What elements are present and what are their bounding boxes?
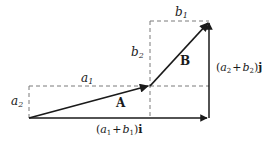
label-b1: b1 — [175, 5, 188, 20]
vector-A-arrow — [29, 86, 148, 118]
vector-addition-diagram: a1 a2 b1 b2 A B (a1+b1)i (a2+b2)j — [0, 0, 274, 142]
label-b2: b2 — [131, 45, 144, 60]
label-a2: a2 — [11, 94, 23, 109]
label-a1: a1 — [81, 71, 93, 86]
label-vector-B: B — [180, 54, 190, 68]
label-vector-A: A — [115, 96, 126, 110]
label-sum-x: (a1+b1)i — [96, 123, 143, 137]
vector-B-arrow — [150, 23, 208, 86]
label-sum-y: (a2+b2)j — [216, 61, 262, 75]
